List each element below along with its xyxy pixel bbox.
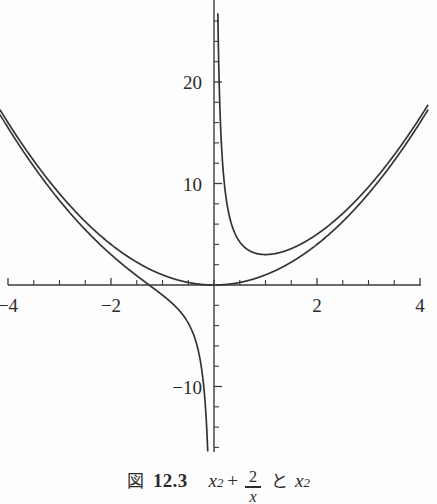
caption-expr2-base: x bbox=[295, 471, 303, 490]
curve-x^2 + 2/x bbox=[218, 14, 428, 255]
caption-figure-word: 図 bbox=[127, 473, 144, 490]
caption-fraction: 2 x bbox=[245, 469, 261, 504]
curve-x^2 + 2/x bbox=[0, 115, 207, 451]
caption-inner: 図 12.3 x2 + 2 x と x2 bbox=[127, 471, 310, 504]
x-tick-label: −4 bbox=[0, 295, 19, 316]
plot-area: −4−224 2010−10 bbox=[0, 0, 437, 504]
x-tick-label: −2 bbox=[101, 295, 121, 316]
caption-expr1-exponent: 2 bbox=[217, 477, 223, 490]
x-tick-label: 4 bbox=[415, 295, 425, 316]
fraction-numerator: 2 bbox=[249, 469, 257, 486]
figure-container: −4−224 2010−10 図 12.3 x2 + 2 x と x2 bbox=[0, 0, 437, 504]
caption-expression: x2 + 2 x と x2 bbox=[208, 471, 310, 504]
y-tick-label: 10 bbox=[183, 174, 202, 195]
y-tick-label: −10 bbox=[172, 377, 202, 398]
x-axis-tick-labels: −4−224 bbox=[0, 295, 425, 316]
x-tick-label: 2 bbox=[312, 295, 322, 316]
fraction-denominator: x bbox=[249, 488, 256, 504]
caption-expr1-base: x bbox=[208, 471, 216, 490]
caption-plus-sign: + bbox=[227, 471, 238, 490]
y-tick-label: 20 bbox=[183, 72, 202, 93]
figure-caption: 図 12.3 x2 + 2 x と x2 bbox=[0, 464, 437, 504]
caption-expr2-exponent: 2 bbox=[304, 477, 310, 490]
y-axis-ticks bbox=[214, 21, 222, 447]
caption-figure-number: 12.3 bbox=[153, 471, 187, 490]
caption-conjunction: と bbox=[271, 473, 288, 490]
